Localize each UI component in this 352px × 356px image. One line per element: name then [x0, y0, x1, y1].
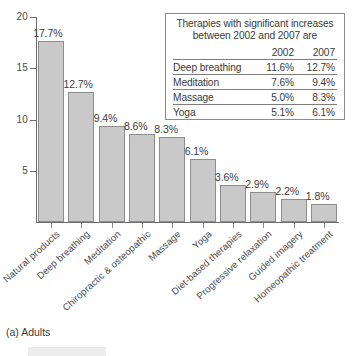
bar-value-label: 2.9% — [245, 179, 269, 190]
inset-table-row: Deep breathing11.6%12.7% — [173, 60, 337, 75]
bar — [38, 41, 64, 222]
x-axis-tick — [112, 223, 113, 228]
bar — [68, 92, 94, 222]
bar-value-label: 9.4% — [94, 113, 118, 124]
inset-table-title: Therapies with significant increases bet… — [173, 18, 337, 42]
y-axis-tick-label: 15 — [0, 63, 28, 73]
inset-table: Therapies with significant increases bet… — [165, 13, 345, 120]
inset-col-header-2002: 2002 — [255, 45, 296, 60]
inset-cell-2002: 11.6% — [255, 60, 296, 75]
inset-data-table: 2002 2007 Deep breathing11.6%12.7%Medita… — [173, 45, 337, 119]
x-axis-tick — [263, 223, 264, 228]
bar-value-label: 3.6% — [215, 172, 239, 183]
inset-cell-2007: 9.4% — [296, 75, 337, 90]
x-axis-tick — [81, 223, 82, 228]
inset-col-header-2007: 2007 — [296, 45, 337, 60]
x-axis-tick — [172, 223, 173, 228]
y-axis-tick-label: 10 — [0, 115, 28, 125]
inset-table-title-line2: between 2002 and 2007 are — [173, 30, 337, 42]
figure-caption: (a) Adults — [6, 326, 50, 338]
bar — [311, 204, 337, 222]
x-axis-tick — [51, 223, 52, 228]
inset-cell-2007: 12.7% — [296, 60, 337, 75]
inset-table-row: Massage5.0%8.3% — [173, 90, 337, 105]
inset-table-row: Meditation7.6%9.4% — [173, 75, 337, 90]
bar — [129, 134, 155, 222]
y-axis-tick-label-text: 15 — [2, 63, 28, 73]
bar — [190, 159, 216, 222]
x-axis-category-label: Yoga — [190, 229, 213, 251]
x-axis-tick — [233, 223, 234, 228]
inset-cell-therapy-name: Yoga — [173, 105, 255, 120]
bar — [281, 199, 307, 222]
inset-cell-therapy-name: Deep breathing — [173, 60, 255, 75]
figure-adults-cam-therapies: 5101520 17.7%12.7%9.4%8.6%8.3%6.1%3.6%2.… — [0, 0, 352, 356]
bar-value-label: 8.3% — [154, 124, 178, 135]
y-axis-tick-label: 20 — [0, 12, 28, 22]
bar-value-label: 8.6% — [124, 121, 148, 132]
inset-cell-2002: 5.0% — [255, 90, 296, 105]
x-axis-tick — [142, 223, 143, 228]
inset-col-header-name — [173, 45, 255, 60]
x-axis-tick — [294, 223, 295, 228]
bar — [99, 126, 125, 222]
y-axis-tick-label-text: 10 — [2, 115, 28, 125]
y-axis-tick-label: 5 — [0, 166, 28, 176]
bar — [250, 192, 276, 222]
bar-value-label: 6.1% — [185, 146, 209, 157]
bar-value-label: 12.7% — [63, 79, 92, 90]
inset-cell-2007: 8.3% — [296, 90, 337, 105]
inset-table-head: 2002 2007 — [173, 45, 337, 60]
x-axis-tick — [324, 223, 325, 228]
bar-value-label: 1.8% — [306, 191, 330, 202]
inset-table-header-row: 2002 2007 — [173, 45, 337, 60]
bar — [220, 185, 246, 222]
bar-value-label: 2.2% — [276, 186, 300, 197]
inset-cell-2002: 7.6% — [255, 75, 296, 90]
inset-table-body: Deep breathing11.6%12.7%Meditation7.6%9.… — [173, 60, 337, 120]
x-axis-category-label: Massage — [147, 229, 183, 263]
inset-cell-therapy-name: Massage — [173, 90, 255, 105]
y-axis-tick-label-text: 20 — [2, 12, 28, 22]
inset-table-title-line1: Therapies with significant increases — [173, 18, 337, 30]
inset-cell-2007: 6.1% — [296, 105, 337, 120]
bar-value-label: 17.7% — [33, 28, 62, 39]
x-axis-tick — [203, 223, 204, 228]
next-figure-strip — [28, 347, 106, 356]
y-axis-tick-label-text: 5 — [2, 166, 28, 176]
inset-cell-therapy-name: Meditation — [173, 75, 255, 90]
inset-cell-2002: 5.1% — [255, 105, 296, 120]
inset-table-row: Yoga5.1%6.1% — [173, 105, 337, 120]
bar — [159, 137, 185, 222]
